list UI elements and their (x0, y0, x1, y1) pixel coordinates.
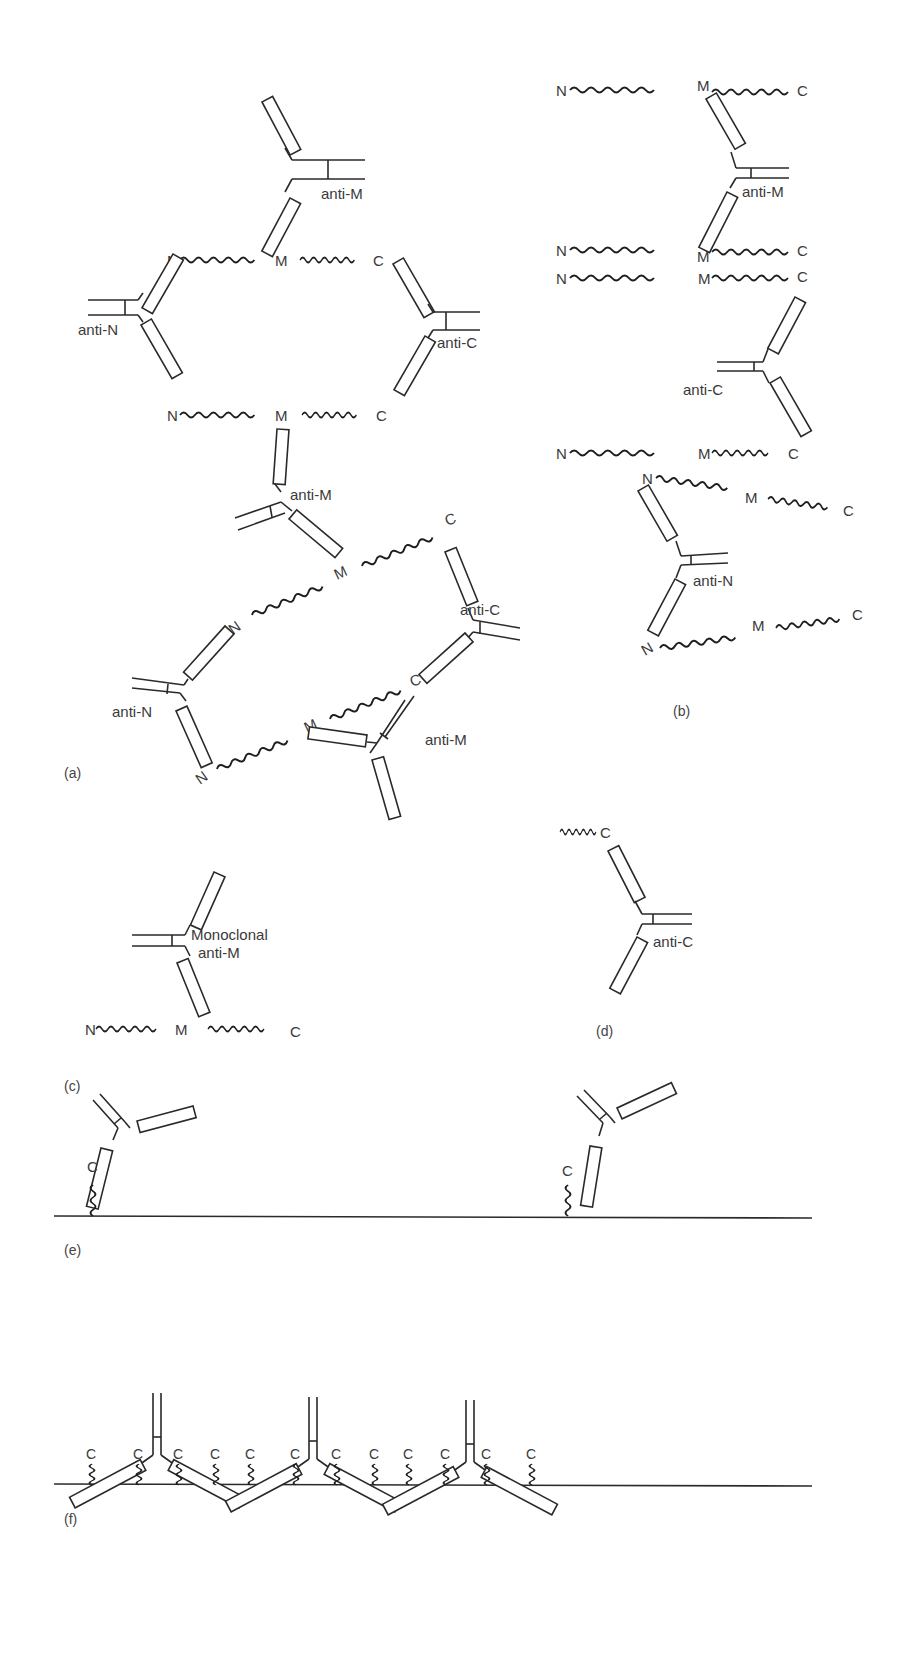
antigen-tilted-upper: N M C (225, 509, 458, 637)
svg-text:C: C (788, 445, 799, 462)
label-anti-n: anti-N (693, 572, 733, 589)
antigen-b4: N M C (556, 445, 799, 462)
label-anti-c: anti-C (683, 381, 723, 398)
panel-label-e: (e) (64, 1242, 81, 1258)
antibody-anti-m-middle: anti-M (235, 429, 343, 558)
antigen-middle: N M C (167, 407, 387, 424)
label-anti-c: anti-C (437, 334, 477, 351)
antigen-tilted-lower: N M C (192, 670, 423, 787)
svg-text:N: N (638, 638, 656, 658)
svg-text:C: C (526, 1446, 536, 1462)
antibody-e-left: C (86, 1094, 196, 1216)
svg-text:C: C (852, 606, 863, 623)
panel-e: C C (e) (54, 1083, 812, 1258)
svg-text:N: N (556, 82, 567, 99)
svg-text:M: M (697, 248, 710, 265)
svg-text:C: C (133, 1446, 143, 1462)
antibody-monoclonal-anti-m: Monoclonal anti-M (132, 872, 268, 1017)
svg-text:M: M (752, 617, 765, 634)
svg-text:N: N (192, 767, 211, 787)
label-anti-m: anti-M (198, 944, 240, 961)
svg-text:C: C (843, 502, 854, 519)
svg-text:C: C (403, 1446, 413, 1462)
antigen-b3: N M C (556, 268, 808, 287)
antibody-d-anti-c: anti-C (608, 846, 693, 994)
surface-tethers (90, 1464, 535, 1485)
panel-c: Monoclonal anti-M N M C (c) (64, 872, 301, 1094)
antigen-b1: N M C (556, 77, 808, 99)
svg-text:C: C (210, 1446, 220, 1462)
svg-text:C: C (173, 1446, 183, 1462)
svg-text:C: C (290, 1023, 301, 1040)
svg-text:C: C (376, 407, 387, 424)
svg-text:N: N (167, 407, 178, 424)
panel-a: anti-M N M C anti-N anti-C (64, 96, 520, 819)
svg-text:C: C (369, 1446, 379, 1462)
svg-text:M: M (175, 1021, 188, 1038)
antibody-b-anti-n: anti-N (638, 485, 733, 636)
svg-text:N: N (556, 445, 567, 462)
panel-label-b: (b) (673, 703, 690, 719)
label-anti-c: anti-C (653, 933, 693, 950)
antigen-c: N M C (85, 1021, 301, 1040)
svg-text:C: C (373, 252, 384, 269)
antibody-b-anti-c: anti-C (683, 297, 811, 437)
svg-text:C: C (442, 509, 458, 529)
svg-text:M: M (697, 77, 710, 94)
svg-text:M: M (698, 270, 711, 287)
svg-text:M: M (698, 445, 711, 462)
svg-text:C: C (290, 1446, 300, 1462)
panel-f: C C C C C C C C C C C C (f) (54, 1393, 812, 1527)
antibody-e-right: C (562, 1083, 676, 1216)
panel-b: N M C anti-M N M C N M C (556, 77, 863, 719)
svg-text:N: N (642, 470, 653, 487)
label-anti-n: anti-N (78, 321, 118, 338)
label-anti-m: anti-M (290, 486, 332, 503)
label-monoclonal: Monoclonal (191, 926, 268, 943)
antibody-antigen-diagram: anti-M N M C anti-N anti-C (0, 0, 913, 1670)
label-anti-n: anti-N (112, 703, 152, 720)
antibody-anti-c-lower: anti-C (419, 548, 520, 684)
antibody-anti-m-bottom: anti-M (308, 696, 467, 820)
svg-text:N: N (556, 242, 567, 259)
svg-text:C: C (797, 242, 808, 259)
svg-text:N: N (85, 1021, 96, 1038)
antibody-anti-n-lower: anti-N (112, 626, 234, 768)
svg-text:C: C (86, 1446, 96, 1462)
svg-text:C: C (481, 1446, 491, 1462)
panel-label-f: (f) (64, 1511, 77, 1527)
svg-text:M: M (275, 252, 288, 269)
label-anti-m: anti-M (321, 185, 363, 202)
antigen-top: N M C (167, 252, 384, 269)
antibody-anti-c-right: anti-C (393, 258, 480, 396)
antigen-b5: N M C (642, 470, 854, 519)
svg-text:C: C (600, 824, 611, 841)
svg-text:M: M (745, 489, 758, 506)
svg-text:M: M (331, 562, 350, 583)
antigen-b2: N M C (556, 242, 808, 265)
svg-text:M: M (275, 407, 288, 424)
panel-label-a: (a) (64, 765, 81, 781)
antigen-d-fragment: C (560, 824, 611, 841)
svg-text:C: C (87, 1158, 98, 1175)
label-anti-c: anti-C (460, 601, 500, 618)
solid-surface (54, 1216, 812, 1218)
antibody-anti-m-top: anti-M (262, 96, 365, 256)
svg-text:N: N (556, 270, 567, 287)
antigen-b6: N M C (638, 606, 863, 659)
svg-text:C: C (797, 82, 808, 99)
svg-text:C: C (331, 1446, 341, 1462)
svg-text:C: C (440, 1446, 450, 1462)
label-anti-m: anti-M (742, 183, 784, 200)
panel-label-d: (d) (596, 1023, 613, 1039)
svg-text:C: C (245, 1446, 255, 1462)
svg-text:C: C (562, 1162, 573, 1179)
label-anti-m: anti-M (425, 731, 467, 748)
panel-d: C anti-C (d) (560, 824, 693, 1039)
antibody-b-anti-m: anti-M (699, 93, 789, 253)
panel-label-c: (c) (64, 1078, 80, 1094)
svg-text:C: C (797, 268, 808, 285)
antibody-anti-n-left: anti-N (78, 254, 183, 379)
